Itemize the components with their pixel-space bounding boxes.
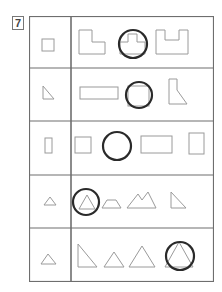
row-2 bbox=[43, 79, 187, 108]
row-1 bbox=[42, 30, 188, 58]
question-number: 7 bbox=[12, 16, 24, 30]
option-long-rectangle bbox=[80, 87, 118, 99]
option-notched-trapezoid bbox=[169, 79, 187, 104]
answer-circle-icon bbox=[166, 242, 194, 270]
option-trapezoid bbox=[102, 200, 121, 208]
target-small-triangle bbox=[44, 197, 56, 205]
option-triangle bbox=[79, 195, 95, 209]
row-3 bbox=[45, 132, 204, 160]
table-grid bbox=[29, 16, 214, 282]
option-l-shape bbox=[79, 30, 105, 54]
option-u-shape bbox=[156, 30, 188, 54]
option-wide-rectangle bbox=[141, 136, 172, 153]
option-small-triangle bbox=[104, 252, 124, 267]
target-right-triangle bbox=[43, 86, 54, 99]
option-tall-rectangle bbox=[189, 133, 204, 154]
option-right-triangle bbox=[171, 192, 186, 208]
option-double-peak bbox=[127, 192, 156, 208]
option-right-triangle bbox=[78, 244, 97, 267]
option-large-triangle bbox=[129, 246, 155, 267]
answer-circle-icon bbox=[103, 132, 131, 160]
option-square bbox=[128, 86, 149, 106]
target-small-square bbox=[42, 39, 54, 51]
row-4 bbox=[44, 189, 186, 215]
shape-matching-table bbox=[29, 16, 214, 282]
row-5 bbox=[41, 242, 194, 270]
option-square bbox=[75, 137, 91, 153]
answer-circle-icon bbox=[73, 189, 99, 215]
target-tall-rectangle bbox=[45, 138, 52, 153]
target-triangle bbox=[41, 254, 56, 264]
option-square-with-tab bbox=[120, 34, 145, 54]
